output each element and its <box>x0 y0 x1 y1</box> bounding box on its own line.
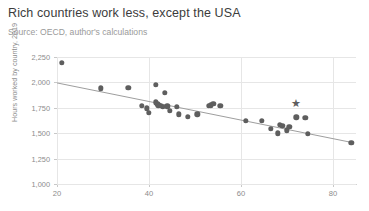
trendline <box>57 57 356 184</box>
y-tick-label: 1,250 <box>4 154 50 163</box>
y-tick-label: 1,500 <box>4 129 50 138</box>
chart-subtitle-source: Source: OECD, author's calculations <box>8 27 147 37</box>
page-title: Rich countries work less, except the USA <box>8 6 241 20</box>
y-tick-label: 2,000 <box>4 78 50 87</box>
y-tick-label: 1,750 <box>4 103 50 112</box>
x-tick-label: 80 <box>329 189 337 198</box>
y-axis-title: Hours worked by country, 2019 <box>10 8 19 138</box>
scatter-chart: Rich countries work less, except the USA… <box>0 0 369 211</box>
data-point-star-usa: ★ <box>291 97 301 108</box>
y-tick-label: 2,250 <box>4 53 50 62</box>
y-tick-label: 1,000 <box>4 180 50 189</box>
x-tick-label: 40 <box>145 189 153 198</box>
x-tick-label: 60 <box>237 189 245 198</box>
gridline-horizontal <box>57 184 356 185</box>
x-tick-label: 20 <box>53 189 61 198</box>
plot-area: ★ <box>57 57 356 184</box>
